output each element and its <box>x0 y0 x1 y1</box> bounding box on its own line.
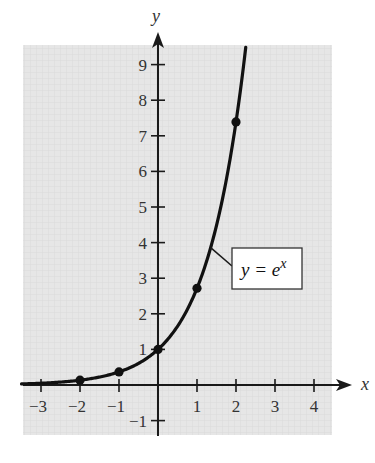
y-tick-label: 3 <box>139 269 148 288</box>
y-tick-label: 8 <box>139 91 148 110</box>
y-tick-label: 4 <box>139 234 148 253</box>
plot-background <box>23 45 332 435</box>
x-tick-label: 3 <box>271 397 280 416</box>
y-tick-label: 1 <box>139 340 148 359</box>
data-point <box>114 367 123 376</box>
y-tick-label: 6 <box>139 162 148 181</box>
y-axis-label: y <box>150 6 160 26</box>
y-tick-label: −1 <box>129 412 147 431</box>
x-tick-label: 2 <box>232 397 241 416</box>
x-tick-label: 4 <box>310 397 319 416</box>
x-tick-label: 1 <box>193 397 202 416</box>
y-tick-label: 2 <box>139 305 148 324</box>
data-point <box>231 117 240 126</box>
annotation-label: y = ex <box>239 256 287 280</box>
exponential-chart: xy −3−2−11234−1123456789 y = ex <box>0 0 375 463</box>
data-point <box>192 284 201 293</box>
x-tick-label: −2 <box>68 397 86 416</box>
x-axis-label: x <box>360 374 369 394</box>
y-tick-label: 5 <box>139 198 148 217</box>
data-point <box>153 345 162 354</box>
annotation-label-main: y = e <box>239 259 280 280</box>
data-point <box>75 376 84 385</box>
y-tick-label: 9 <box>139 56 148 75</box>
y-tick-label: 7 <box>139 127 148 146</box>
x-tick-label: −1 <box>107 397 125 416</box>
annotation-label-exponent: x <box>279 256 287 271</box>
x-tick-label: −3 <box>29 397 47 416</box>
